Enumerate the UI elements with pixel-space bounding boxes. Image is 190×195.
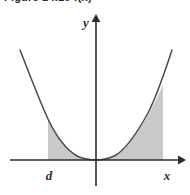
x-axis-label: x — [163, 168, 171, 183]
y-axis-arrowhead-icon — [92, 14, 101, 22]
parabola-plot: y x d — [0, 0, 190, 195]
figure-container: Figure 14.10 f(x) y x d — [0, 0, 190, 195]
lower-limit-label-d: d — [46, 168, 53, 183]
shaded-area-under-curve — [48, 85, 163, 160]
x-axis-arrowhead-icon — [178, 156, 186, 165]
y-axis-label: y — [81, 15, 89, 30]
